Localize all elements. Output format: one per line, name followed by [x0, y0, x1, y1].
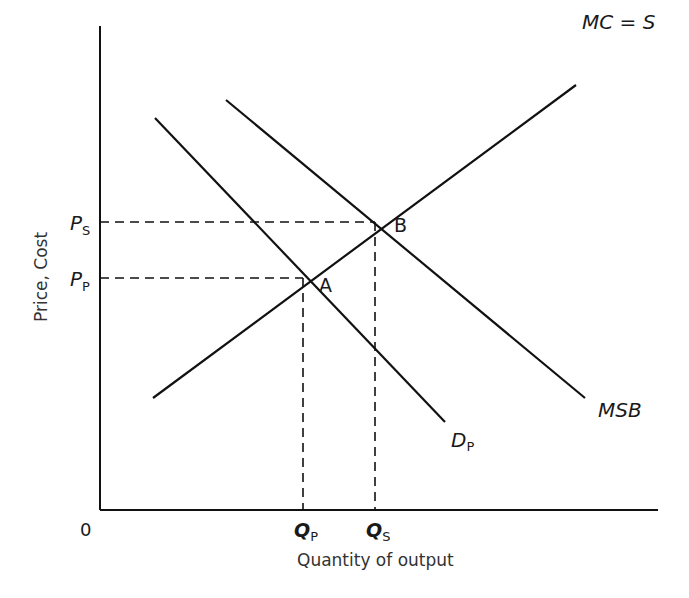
- x-axis-title: Quantity of output: [297, 550, 454, 570]
- private-demand-label: DP: [451, 428, 474, 454]
- qs-main: Q: [366, 519, 382, 541]
- pp-main: P: [70, 267, 83, 291]
- origin-label: 0: [80, 519, 91, 540]
- dp-sub: P: [466, 439, 474, 454]
- msb-label: MSB: [598, 398, 642, 422]
- y-axis-title: Price, Cost: [31, 232, 51, 322]
- ps-main: P: [70, 211, 83, 235]
- pp-tick-label: PP: [70, 267, 90, 294]
- mc-supply-curve: [153, 85, 576, 398]
- equilibrium-a-label: A: [319, 274, 332, 296]
- qs-sub: S: [382, 529, 390, 544]
- ps-tick-label: PS: [70, 211, 90, 238]
- mc-supply-label: MC = S: [582, 10, 656, 34]
- dp-main: D: [451, 428, 466, 452]
- qp-main: Q: [294, 519, 310, 541]
- equilibrium-b-label: B: [394, 214, 407, 236]
- pp-sub: P: [82, 279, 90, 294]
- ps-sub: S: [82, 223, 90, 238]
- qs-tick-label: QS: [366, 519, 390, 544]
- qp-sub: P: [310, 529, 318, 544]
- private-demand-curve: [155, 118, 445, 422]
- qp-tick-label: QP: [294, 519, 318, 544]
- diagram-canvas: MC = S MSB DP A B PS PP QP QS 0 Quantity…: [0, 0, 689, 598]
